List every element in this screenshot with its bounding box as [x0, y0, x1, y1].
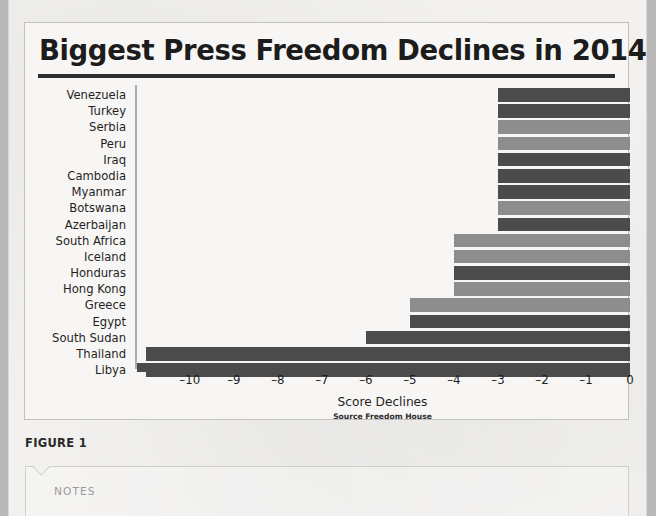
- figure-caption: FIGURE 1: [25, 436, 87, 450]
- bar: [410, 315, 630, 329]
- bar-row: [137, 265, 630, 281]
- category-label: South Sudan: [25, 330, 126, 346]
- notes-panel[interactable]: NOTES: [25, 466, 629, 516]
- bar-row: [137, 217, 630, 233]
- notes-notch-icon: [33, 466, 55, 477]
- bar: [366, 331, 630, 345]
- bar-row: [137, 233, 630, 249]
- bar: [146, 347, 630, 361]
- bar-row: [137, 297, 630, 313]
- bar-row: [137, 346, 630, 362]
- bar: [498, 104, 630, 118]
- title-underline: [38, 74, 615, 78]
- category-axis-labels: VenezuelaTurkeySerbiaPeruIraqCambodiaMya…: [25, 87, 126, 378]
- bar-row: [137, 136, 630, 152]
- bar: [498, 153, 630, 167]
- bar: [454, 234, 630, 248]
- bar-row: [137, 119, 630, 135]
- category-label: Iraq: [25, 152, 126, 168]
- x-tick-label: –8: [258, 373, 298, 387]
- x-tick-label: –2: [522, 373, 562, 387]
- category-label: Myanmar: [25, 184, 126, 200]
- bar-row: [137, 152, 630, 168]
- category-label: Peru: [25, 136, 126, 152]
- x-tick-label: –5: [390, 373, 430, 387]
- chart-title: Biggest Press Freedom Declines in 2014: [39, 31, 614, 69]
- category-label: Thailand: [25, 346, 126, 362]
- category-label: Turkey: [25, 103, 126, 119]
- bar-row: [137, 168, 630, 184]
- x-tick-label: –6: [346, 373, 386, 387]
- bar-row: [137, 330, 630, 346]
- category-label: South Africa: [25, 233, 126, 249]
- bar: [498, 120, 630, 134]
- category-label: Azerbaijan: [25, 217, 126, 233]
- document-page: Biggest Press Freedom Declines in 2014 V…: [9, 0, 646, 516]
- x-tick-label: –3: [478, 373, 518, 387]
- bar: [498, 218, 630, 232]
- bar: [410, 298, 630, 312]
- bar-row: [137, 87, 630, 103]
- bar-row: [137, 200, 630, 216]
- x-tick-label: 0: [610, 373, 650, 387]
- category-label: Honduras: [25, 265, 126, 281]
- category-label: Serbia: [25, 119, 126, 135]
- x-tick-label: –1: [566, 373, 606, 387]
- x-tick-label: –7: [302, 373, 342, 387]
- bar-row: [137, 314, 630, 330]
- category-label: Venezuela: [25, 87, 126, 103]
- x-tick-label: –10: [170, 373, 210, 387]
- bar: [498, 169, 630, 183]
- chart-card: Biggest Press Freedom Declines in 2014 V…: [24, 22, 629, 420]
- bar: [454, 266, 630, 280]
- category-label: Greece: [25, 297, 126, 313]
- category-label: Cambodia: [25, 168, 126, 184]
- bar-row: [137, 184, 630, 200]
- x-axis-rule: [137, 363, 630, 372]
- chart-source-note: Source Freedom House: [137, 412, 628, 421]
- x-tick-label: –9: [214, 373, 254, 387]
- bar-row: [137, 103, 630, 119]
- bar-series: [137, 87, 630, 363]
- plot-area: VenezuelaTurkeySerbiaPeruIraqCambodiaMya…: [25, 85, 630, 355]
- notes-label: NOTES: [54, 485, 96, 497]
- x-axis-ticks: –10–9–8–7–6–5–4–3–2–10: [25, 373, 630, 391]
- bar-row: [137, 249, 630, 265]
- bar: [454, 282, 630, 296]
- bar: [498, 185, 630, 199]
- bar: [498, 137, 630, 151]
- category-label: Botswana: [25, 200, 126, 216]
- bar: [498, 201, 630, 215]
- category-label: Egypt: [25, 314, 126, 330]
- category-label: Iceland: [25, 249, 126, 265]
- x-axis-label: Score Declines: [137, 395, 628, 409]
- bar-row: [137, 281, 630, 297]
- bar: [454, 250, 630, 264]
- category-label: Hong Kong: [25, 281, 126, 297]
- bar: [498, 88, 630, 102]
- x-tick-label: –4: [434, 373, 474, 387]
